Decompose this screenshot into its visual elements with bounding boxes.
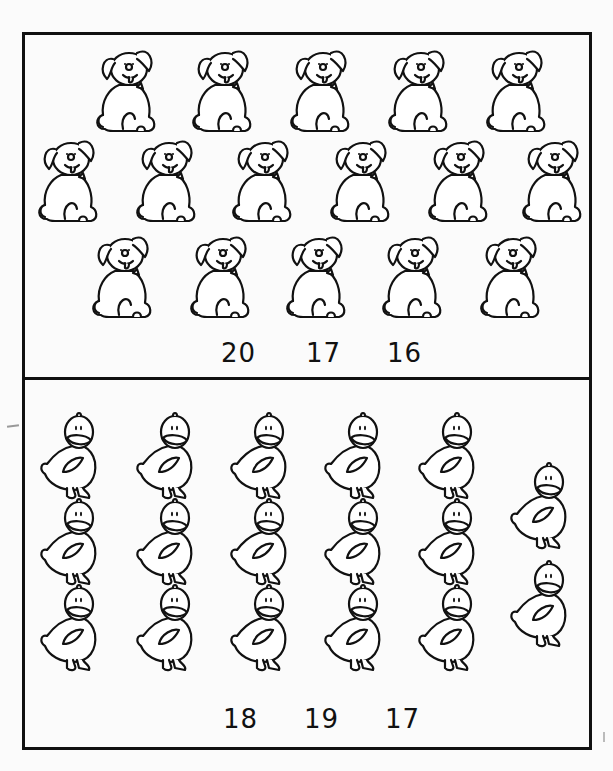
duck-icon bbox=[37, 408, 107, 503]
scan-mark bbox=[7, 424, 19, 428]
dog-icon bbox=[133, 135, 203, 225]
duck-icon bbox=[133, 494, 203, 589]
scan-mark bbox=[603, 732, 605, 742]
duck-counting-panel: 18 19 17 bbox=[25, 380, 589, 744]
answer-choice[interactable]: 18 bbox=[223, 704, 258, 734]
duck-icon bbox=[321, 408, 391, 503]
duck-icon bbox=[37, 494, 107, 589]
dog-counting-panel: 20 17 16 bbox=[25, 35, 589, 377]
dog-icon bbox=[187, 231, 257, 321]
dog-icon bbox=[327, 135, 397, 225]
duck-icon bbox=[133, 408, 203, 503]
dog-icon bbox=[483, 45, 553, 135]
answer-choice[interactable]: 19 bbox=[304, 704, 339, 734]
duck-icon bbox=[227, 580, 297, 675]
dog-icon bbox=[229, 135, 299, 225]
dog-icon bbox=[283, 231, 353, 321]
duck-icon bbox=[415, 494, 485, 589]
dog-icon bbox=[519, 135, 589, 225]
dog-icon bbox=[385, 45, 455, 135]
duck-icon bbox=[133, 580, 203, 675]
dog-icon bbox=[89, 231, 159, 321]
answer-choice[interactable]: 17 bbox=[385, 704, 420, 734]
answer-choice[interactable]: 16 bbox=[387, 338, 422, 368]
dog-icon bbox=[425, 135, 495, 225]
duck-icon bbox=[321, 580, 391, 675]
answer-choice[interactable]: 17 bbox=[306, 338, 341, 368]
dog-icon bbox=[477, 231, 547, 321]
duck-icon bbox=[227, 408, 297, 503]
answer-choice[interactable]: 20 bbox=[221, 338, 256, 368]
duck-icon bbox=[321, 494, 391, 589]
dog-icon bbox=[35, 135, 105, 225]
dog-icon bbox=[379, 231, 449, 321]
duck-icon bbox=[415, 580, 485, 675]
dog-icon bbox=[287, 45, 357, 135]
duck-icon bbox=[227, 494, 297, 589]
duck-icon bbox=[415, 408, 485, 503]
dog-icon bbox=[93, 45, 163, 135]
duck-icon bbox=[507, 556, 577, 651]
duck-icon bbox=[507, 458, 577, 553]
dog-icon bbox=[189, 45, 259, 135]
duck-icon bbox=[37, 580, 107, 675]
